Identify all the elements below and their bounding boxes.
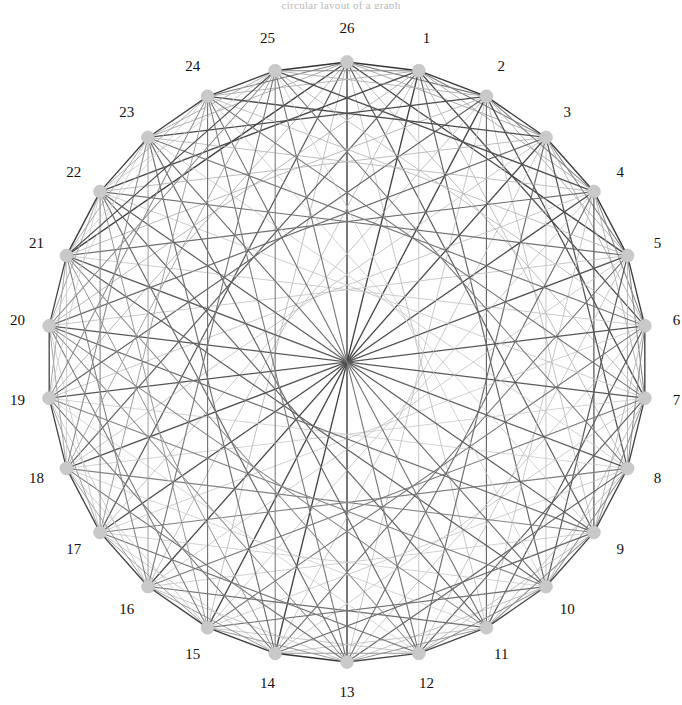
graph-node-label-21: 21 — [29, 235, 44, 251]
graph-node-3[interactable] — [539, 131, 552, 144]
graph-node-1[interactable] — [412, 64, 425, 77]
graph-node-label-15: 15 — [185, 646, 200, 662]
graph-edge — [100, 532, 207, 627]
graph-node-label-8: 8 — [654, 470, 662, 486]
graph-node-label-2: 2 — [498, 58, 506, 74]
graph-node-label-25: 25 — [260, 30, 275, 46]
graph-node-label-23: 23 — [119, 104, 134, 120]
graph-node-label-18: 18 — [29, 470, 44, 486]
graph-node-8[interactable] — [621, 462, 634, 475]
graph-edge — [67, 256, 276, 654]
graph-edge — [49, 326, 207, 628]
graph-edge — [67, 468, 149, 586]
graph-node-label-4: 4 — [616, 164, 624, 180]
graph-edge — [67, 137, 149, 255]
graph-node-19[interactable] — [43, 392, 56, 405]
graph-node-label-26: 26 — [340, 20, 356, 36]
graph-node-15[interactable] — [201, 621, 214, 634]
graph-edge — [100, 96, 207, 191]
graph-node-label-22: 22 — [66, 164, 81, 180]
graph-node-label-11: 11 — [494, 646, 508, 662]
graph-node-17[interactable] — [94, 526, 107, 539]
graph-node-6[interactable] — [638, 319, 651, 332]
graph-node-label-20: 20 — [10, 312, 25, 328]
graph-node-5[interactable] — [621, 249, 634, 262]
graph-node-23[interactable] — [142, 131, 155, 144]
graph-edge — [419, 256, 628, 654]
graph-node-label-24: 24 — [185, 58, 201, 74]
edges-layer — [49, 62, 645, 662]
graph-node-2[interactable] — [480, 90, 493, 103]
figure-root: circular layout of a graph 1234567891011… — [0, 0, 682, 705]
graph-node-12[interactable] — [412, 647, 425, 660]
graph-node-label-13: 13 — [340, 684, 355, 700]
graph-edge — [100, 192, 347, 662]
graph-node-26[interactable] — [341, 56, 354, 69]
graph-node-label-5: 5 — [654, 235, 662, 251]
graph-edge — [100, 96, 486, 532]
graph-edge — [208, 192, 594, 628]
graph-node-24[interactable] — [201, 90, 214, 103]
graph-edge — [148, 587, 275, 654]
graph-node-label-6: 6 — [673, 312, 681, 328]
graph-edge — [49, 96, 207, 398]
graph-edge — [347, 192, 594, 662]
graph-node-label-16: 16 — [119, 601, 135, 617]
graph-edge — [100, 62, 347, 532]
graph-edge — [347, 62, 594, 532]
graph-node-7[interactable] — [638, 392, 651, 405]
graph-node-label-9: 9 — [616, 541, 624, 557]
graph-edge — [49, 71, 275, 326]
graph-node-label-1: 1 — [423, 30, 431, 46]
graph-node-4[interactable] — [587, 185, 600, 198]
graph-node-21[interactable] — [60, 249, 73, 262]
graph-node-14[interactable] — [269, 647, 282, 660]
graph-node-label-19: 19 — [10, 392, 25, 408]
graph-edge — [208, 96, 594, 532]
graph-node-label-3: 3 — [563, 104, 571, 120]
graph-node-16[interactable] — [142, 580, 155, 593]
graph-node-label-10: 10 — [560, 601, 575, 617]
graph-edge — [100, 192, 486, 628]
graph-node-label-7: 7 — [673, 392, 681, 408]
graph-node-25[interactable] — [269, 64, 282, 77]
graph-node-18[interactable] — [60, 462, 73, 475]
graph-edge — [67, 71, 276, 469]
graph-node-22[interactable] — [94, 185, 107, 198]
graph-node-label-14: 14 — [260, 675, 276, 691]
graph-edge — [419, 71, 628, 469]
graph-node-9[interactable] — [587, 526, 600, 539]
graph-node-label-17: 17 — [66, 541, 82, 557]
circular-graph-canvas[interactable]: 1234567891011121314151617181920212223242… — [0, 0, 682, 705]
graph-node-20[interactable] — [43, 319, 56, 332]
graph-node-11[interactable] — [480, 621, 493, 634]
graph-node-label-12: 12 — [419, 675, 434, 691]
graph-node-10[interactable] — [539, 580, 552, 593]
graph-node-13[interactable] — [341, 656, 354, 669]
